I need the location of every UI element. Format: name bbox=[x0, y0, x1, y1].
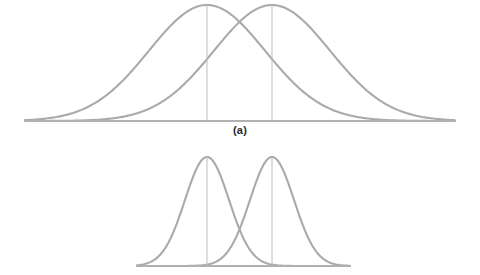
distribution-figure bbox=[0, 0, 480, 275]
panel-a-caption: (a) bbox=[0, 124, 480, 136]
figure-background bbox=[0, 0, 480, 275]
figure-root: (a) bbox=[0, 0, 480, 275]
